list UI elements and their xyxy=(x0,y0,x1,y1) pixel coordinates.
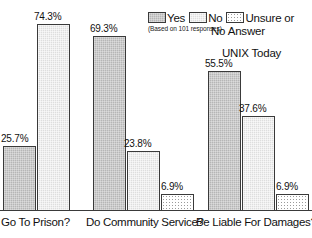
bar-label-liable-damages-unsure: 6.9% xyxy=(276,181,298,192)
x-axis-label-liable-damages: Be Liable For Damages? xyxy=(196,216,312,228)
x-axis-label-go-to-prison: Go To Prison? xyxy=(1,216,70,228)
source-attribution: UNIX Today xyxy=(222,47,281,59)
bar-go-to-prison-yes[interactable] xyxy=(3,146,36,211)
chart-legend: Yes No Unsure or (Based on 101 responses… xyxy=(148,11,299,24)
bar-label-liable-damages-yes: 55.5% xyxy=(205,58,232,69)
bar-liable-damages-unsure[interactable] xyxy=(276,194,309,211)
legend-label-yes: Yes xyxy=(167,12,185,24)
legend-swatch-unsure xyxy=(226,12,244,23)
bar-label-go-to-prison-yes: 25.7% xyxy=(1,133,28,144)
bar-label-community-service-unsure: 6.9% xyxy=(161,181,183,192)
legend-swatch-no xyxy=(189,12,207,23)
bar-community-service-no[interactable] xyxy=(127,151,160,211)
chart-canvas: 25.7% 74.3% 69.3% 23.8% 6.9% 55.5% 37.6%… xyxy=(0,0,312,238)
legend-label-no: No xyxy=(208,12,222,24)
x-axis-label-community-service: Do Community Service? xyxy=(86,216,204,228)
bar-liable-damages-yes[interactable] xyxy=(208,71,241,211)
bar-liable-damages-no[interactable] xyxy=(242,116,275,211)
legend-label-unsure-line2: No Answer xyxy=(211,25,265,37)
bar-label-go-to-prison-no: 74.3% xyxy=(34,11,61,22)
bar-label-community-service-yes: 69.3% xyxy=(90,23,117,34)
bar-community-service-yes[interactable] xyxy=(93,36,126,211)
bar-go-to-prison-no[interactable] xyxy=(37,24,70,211)
bar-label-liable-damages-no: 37.6% xyxy=(239,103,266,114)
bar-label-community-service-no: 23.8% xyxy=(124,138,151,149)
legend-label-unsure-line1: Unsure or xyxy=(245,12,294,24)
axis-baseline xyxy=(0,210,312,211)
legend-swatch-yes xyxy=(148,12,166,23)
bar-community-service-unsure[interactable] xyxy=(161,194,194,211)
